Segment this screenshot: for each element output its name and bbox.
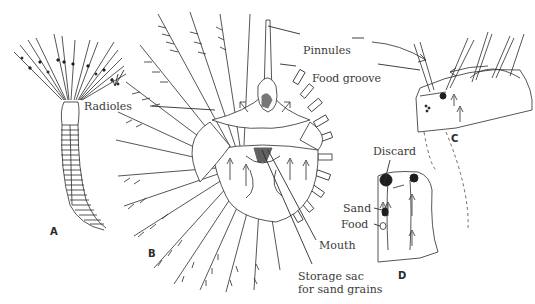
panel-label-a: A: [50, 226, 58, 237]
line-drawing: [0, 0, 535, 304]
panel-a-worm-drawing: [14, 34, 126, 230]
panel-label-b: B: [148, 248, 156, 259]
fan-worm-feeding-figure: Radioles Pinnules Food groove Mouth Stor…: [0, 0, 535, 304]
label-food-groove: Food groove: [312, 73, 381, 85]
label-discard: Discard: [373, 146, 416, 158]
label-radioles: Radioles: [84, 101, 132, 113]
panel-label-d: D: [398, 270, 406, 281]
label-storage-sac-line2: for sand grains: [298, 284, 382, 296]
label-sand: Sand: [343, 203, 371, 215]
panel-label-c: C: [451, 133, 458, 144]
label-food: Food: [341, 219, 368, 231]
label-pinnules: Pinnules: [303, 45, 351, 57]
label-storage-sac-line1: Storage sac: [298, 271, 364, 283]
label-mouth: Mouth: [319, 240, 355, 252]
panel-d-sorting-drawing: [378, 172, 438, 263]
